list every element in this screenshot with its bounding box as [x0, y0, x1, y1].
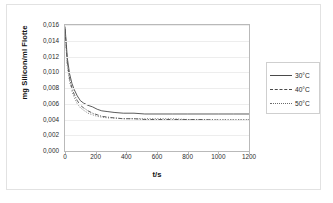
- legend-line-swatch-icon: [270, 100, 292, 107]
- gridline: [65, 104, 249, 105]
- x-tick-label: 800: [182, 154, 193, 160]
- x-tick-mark: [249, 151, 250, 154]
- y-axis-ticks: 0,0000,0020,0040,0060,0080,0100,0120,014…: [24, 24, 62, 152]
- x-tick-label: 1000: [211, 154, 225, 160]
- legend-label: 50°C: [295, 100, 310, 107]
- gridline: [65, 88, 249, 89]
- y-tick-label: 0,010: [43, 69, 59, 75]
- x-tick-mark: [96, 151, 97, 154]
- x-tick-label: 600: [152, 154, 163, 160]
- y-tick-label: 0,006: [43, 101, 59, 107]
- y-tick-label: 0,002: [43, 132, 59, 138]
- y-tick-label: 0,012: [43, 53, 59, 59]
- y-tick-label: 0,004: [43, 116, 59, 122]
- x-tick-mark: [65, 151, 66, 154]
- gridline: [65, 57, 249, 58]
- legend-line-swatch-icon: [270, 72, 292, 79]
- y-tick-label: 0,008: [43, 85, 59, 91]
- x-tick-label: 400: [121, 154, 132, 160]
- x-tick-label: 1200: [242, 154, 256, 160]
- gridline: [65, 120, 249, 121]
- x-tick-mark: [157, 151, 158, 154]
- series-line-30c: [65, 27, 249, 114]
- series-line-50c: [65, 31, 249, 119]
- x-axis-title: t/s: [64, 170, 250, 179]
- gridline: [65, 72, 249, 73]
- legend-label: 40°C: [295, 86, 310, 93]
- legend-item-30c[interactable]: 30°C: [270, 68, 316, 82]
- gridline: [65, 135, 249, 136]
- gridline: [65, 41, 249, 42]
- chart-legend: 30°C40°C50°C: [266, 62, 320, 114]
- y-tick-label: 0,014: [43, 38, 59, 44]
- y-tick-label: 0,016: [43, 22, 59, 28]
- chart-figure: mg Silicon/ml Flotte 0,0000,0020,0040,00…: [0, 0, 333, 203]
- x-axis-ticks: 020040060080010001200: [64, 154, 250, 166]
- plot-area: [64, 24, 250, 152]
- legend-item-40c[interactable]: 40°C: [270, 82, 316, 96]
- x-tick-label: 200: [90, 154, 101, 160]
- x-tick-label: 0: [63, 154, 67, 160]
- x-tick-mark: [126, 151, 127, 154]
- legend-line-swatch-icon: [270, 86, 292, 93]
- y-tick-label: 0,000: [43, 148, 59, 154]
- gridline: [65, 25, 249, 26]
- x-tick-mark: [218, 151, 219, 154]
- legend-label: 30°C: [295, 72, 310, 79]
- legend-item-50c[interactable]: 50°C: [270, 96, 316, 110]
- x-tick-mark: [188, 151, 189, 154]
